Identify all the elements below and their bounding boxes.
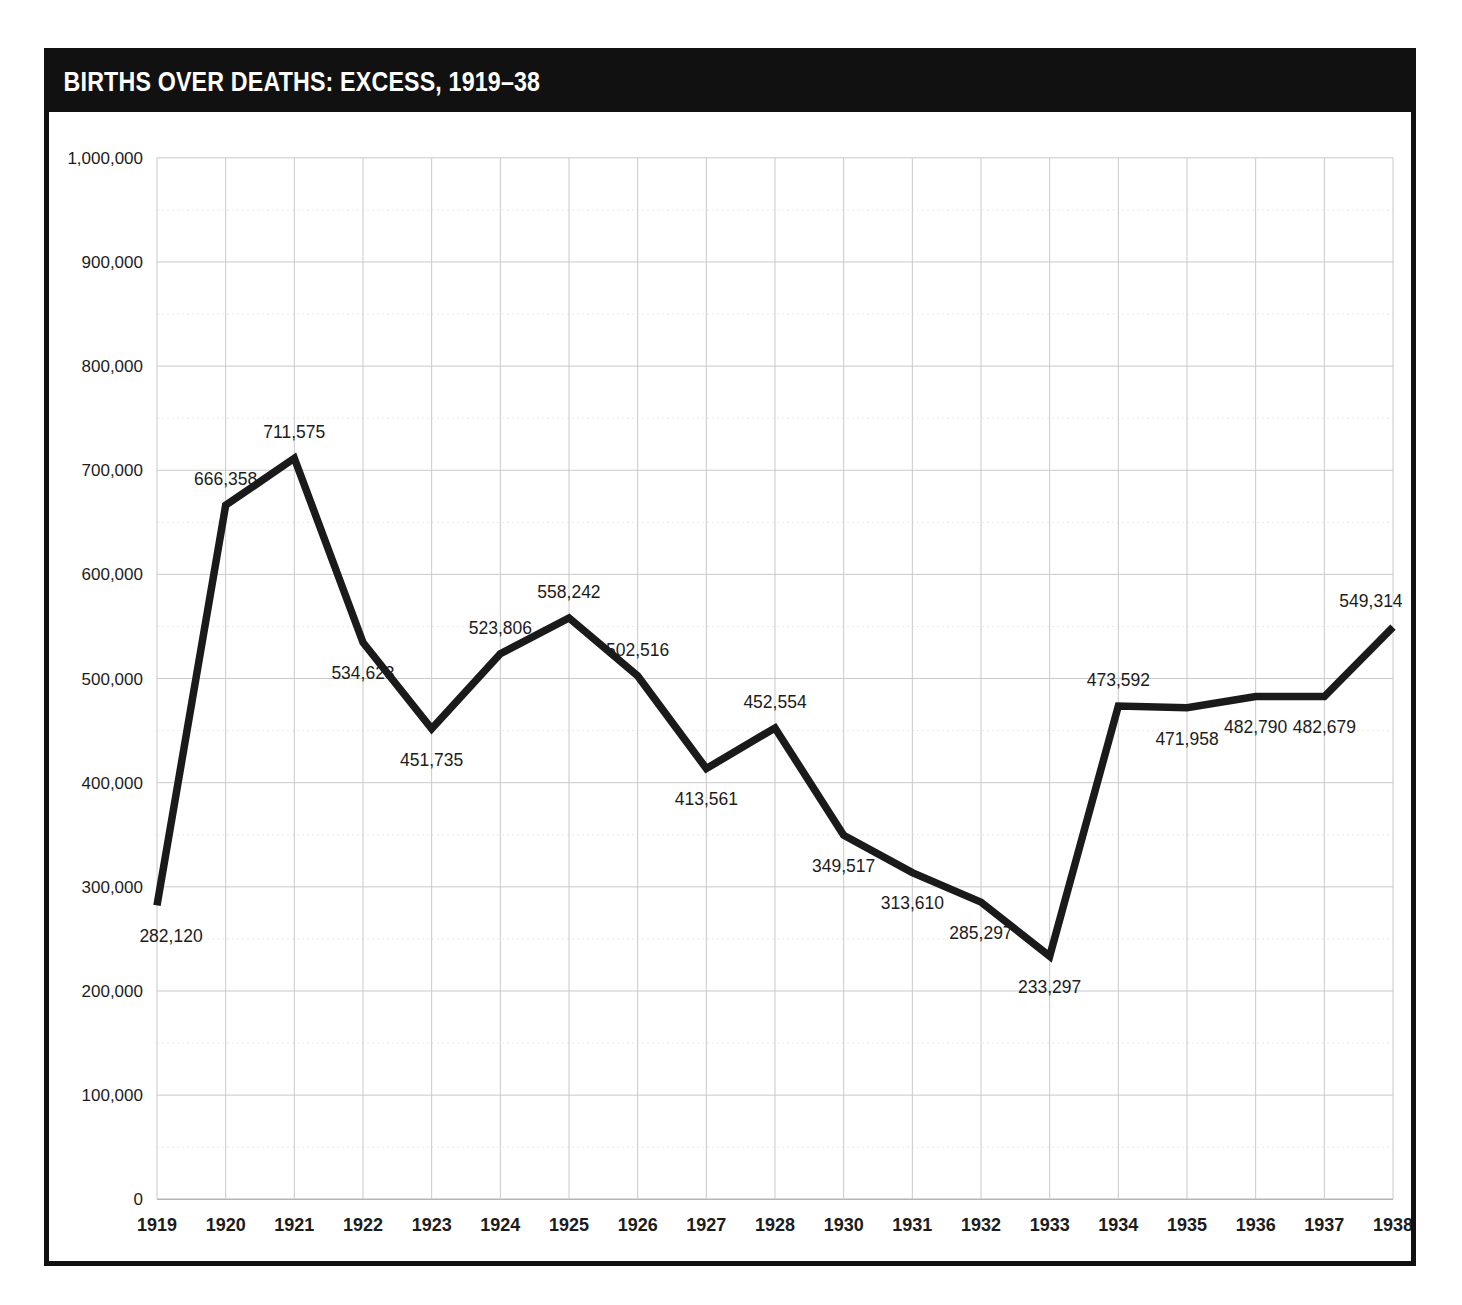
data-point-label: 471,958 — [1155, 729, 1218, 749]
x-axis-tick-label: 1936 — [1236, 1215, 1276, 1235]
data-point-label: 413,561 — [675, 789, 738, 809]
data-point-label: 534,623 — [331, 663, 394, 683]
x-axis-tick-label: 1938 — [1373, 1215, 1411, 1235]
plot-area: 0100,000200,000300,000400,000500,000600,… — [49, 112, 1411, 1261]
x-axis-tick-label: 1928 — [755, 1215, 795, 1235]
data-point-label: 233,297 — [1018, 977, 1081, 997]
line-chart-svg: 0100,000200,000300,000400,000500,000600,… — [49, 112, 1411, 1261]
y-axis-tick-label: 300,000 — [82, 878, 143, 897]
x-axis-tick-label: 1927 — [686, 1215, 726, 1235]
data-point-label: 523,806 — [469, 618, 532, 638]
y-axis-tick-label: 500,000 — [82, 670, 143, 689]
data-point-label: 349,517 — [812, 856, 875, 876]
chart-title-bar: BIRTHS OVER DEATHS: EXCESS, 1919–38 — [49, 53, 1411, 112]
data-point-label: 451,735 — [400, 750, 463, 770]
x-axis-tick-label: 1931 — [892, 1215, 932, 1235]
x-axis-tick-label: 1924 — [480, 1215, 520, 1235]
data-point-label: 452,554 — [743, 692, 807, 712]
x-axis-tick-label: 1925 — [549, 1215, 589, 1235]
x-axis-tick-label: 1932 — [961, 1215, 1001, 1235]
data-point-label: 473,592 — [1087, 670, 1150, 690]
x-axis-tick-label: 1926 — [618, 1215, 658, 1235]
data-point-label: 313,610 — [881, 894, 945, 914]
y-axis-tick-label: 1,000,000 — [67, 149, 143, 168]
x-axis-tick-label: 1933 — [1030, 1215, 1070, 1235]
y-axis-tick-label: 0 — [134, 1190, 143, 1209]
y-axis-tick-label: 200,000 — [82, 982, 143, 1001]
x-axis-tick-label: 1935 — [1167, 1215, 1207, 1235]
data-point-label: 482,790 — [1224, 717, 1288, 737]
chart-frame: BIRTHS OVER DEATHS: EXCESS, 1919–38 0100… — [44, 48, 1416, 1266]
y-axis-tick-label: 600,000 — [82, 565, 143, 584]
y-axis-tick-label: 400,000 — [82, 774, 143, 793]
x-axis-tick-label: 1922 — [343, 1215, 383, 1235]
x-axis-tick-label: 1934 — [1098, 1215, 1138, 1235]
y-axis-tick-labels: 0100,000200,000300,000400,000500,000600,… — [67, 149, 143, 1209]
data-point-label: 482,679 — [1293, 717, 1356, 737]
y-axis-tick-label: 100,000 — [82, 1086, 143, 1105]
data-point-label: 711,575 — [263, 422, 325, 442]
data-point-labels: 282,120666,358711,575534,623451,735523,8… — [139, 422, 1403, 997]
data-point-label: 558,242 — [537, 582, 600, 602]
y-axis-tick-label: 800,000 — [82, 357, 143, 376]
data-point-label: 666,358 — [194, 469, 257, 489]
page-title: BIRTHS OVER DEATHS: EXCESS, 1919–38 — [49, 67, 540, 98]
x-axis-tick-label: 1923 — [412, 1215, 452, 1235]
data-point-label: 549,314 — [1339, 591, 1403, 611]
x-axis-tick-label: 1921 — [274, 1215, 314, 1235]
x-axis-tick-label: 1937 — [1304, 1215, 1344, 1235]
data-point-label: 282,120 — [139, 926, 203, 946]
data-point-label: 502,516 — [606, 640, 669, 660]
x-axis-tick-label: 1919 — [137, 1215, 177, 1235]
x-axis-tick-label: 1930 — [824, 1215, 864, 1235]
x-axis-tick-labels: 1919192019211922192319241925192619271928… — [137, 1215, 1411, 1235]
x-axis-tick-label: 1920 — [206, 1215, 246, 1235]
data-point-label: 285,297 — [949, 923, 1012, 943]
y-axis-tick-label: 700,000 — [82, 461, 143, 480]
y-axis-tick-label: 900,000 — [82, 253, 143, 272]
